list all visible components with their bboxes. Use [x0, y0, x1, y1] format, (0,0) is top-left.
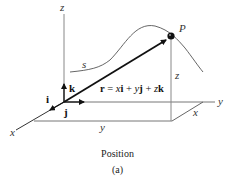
eq-plus-1: +	[123, 83, 134, 94]
figure-caption: Position	[0, 149, 235, 159]
unit-vector-j-label: j	[64, 107, 68, 118]
diagram-canvas	[0, 0, 235, 190]
point-p-label: P	[179, 23, 186, 34]
x-axis-label: x	[10, 127, 15, 138]
y-distance-label: y	[100, 122, 105, 133]
unit-vector-k-label: k	[69, 83, 75, 94]
z-height-label: z	[175, 70, 179, 81]
position-vector-equation: r = xi + yj + zk	[100, 84, 164, 95]
point-p-highlight	[169, 34, 171, 36]
eq-k: k	[158, 83, 164, 94]
eq-plus-2: +	[143, 83, 154, 94]
point-p-marker	[167, 32, 174, 39]
eq-equals: =	[105, 83, 116, 94]
x-projection-line	[172, 102, 203, 121]
unit-vector-i-label: i	[46, 94, 49, 105]
path-s-label: s	[82, 59, 86, 70]
figure-sublabel: (a)	[0, 165, 235, 175]
unit-vector-i	[50, 102, 64, 110]
y-axis-label: y	[218, 96, 223, 107]
x-offset-label: x	[193, 107, 198, 118]
z-axis-label: z	[60, 2, 64, 13]
